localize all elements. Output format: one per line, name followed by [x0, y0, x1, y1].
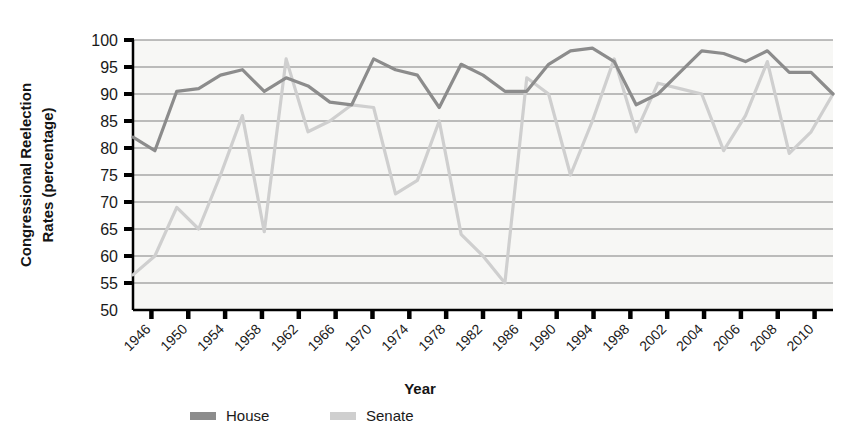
y-axis-tick-label: 90: [100, 86, 118, 103]
y-axis-tick-label: 55: [100, 275, 118, 292]
y-axis-tick-label: 70: [100, 194, 118, 211]
y-axis-tick-label: 60: [100, 248, 118, 265]
reelection-rates-line-chart: 50556065707580859095100 1946195019541958…: [0, 0, 864, 448]
legend-label-house: House: [226, 407, 269, 424]
y-axis-title-line1: Congressional Reelection: [17, 83, 34, 267]
y-axis-title-line2: Rates (percentage): [39, 107, 56, 242]
legend-swatch-senate: [330, 412, 356, 420]
y-axis-tick-label: 80: [100, 140, 118, 157]
y-axis-tick-label: 85: [100, 113, 118, 130]
y-axis-tick-label: 100: [91, 32, 118, 49]
y-axis-tick-label: 65: [100, 221, 118, 238]
legend-label-senate: Senate: [366, 407, 414, 424]
y-axis-tick-label: 95: [100, 59, 118, 76]
x-axis-title: Year: [404, 380, 436, 397]
y-axis-tick-label: 75: [100, 167, 118, 184]
y-axis-tick-label: 50: [100, 302, 118, 319]
legend-swatch-house: [190, 412, 216, 420]
